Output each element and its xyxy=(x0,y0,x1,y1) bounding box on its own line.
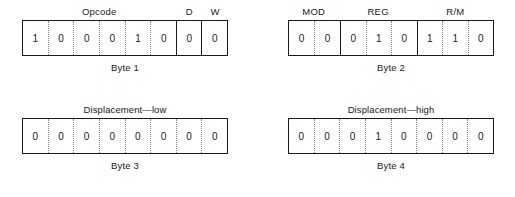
bit-row: 0 0 0 1 0 1 1 0 xyxy=(288,20,494,56)
bit-cell: 0 xyxy=(48,119,74,153)
bit-cell: 0 xyxy=(48,21,74,55)
bit-cell: 0 xyxy=(289,119,314,153)
bit-cell: 0 xyxy=(202,21,227,55)
bit-cell: 0 xyxy=(289,21,314,55)
bit-cell: 0 xyxy=(23,119,48,153)
bit-group-d: 0 xyxy=(176,21,202,55)
bit-group-w: 0 xyxy=(201,21,227,55)
bit-cell: 0 xyxy=(442,119,468,153)
field-label-row: Opcode D W xyxy=(22,4,228,20)
field-label-w: W xyxy=(202,4,228,20)
bit-cell: 0 xyxy=(468,21,494,55)
bit-group-mod: 0 0 xyxy=(289,21,340,55)
bit-cell: 0 xyxy=(201,119,227,153)
bit-group-displacement-high: 0 0 0 1 0 0 0 0 xyxy=(289,119,493,153)
byte-caption: Byte 3 xyxy=(22,154,228,173)
byte-block-1: Opcode D W 1 0 0 0 1 0 0 0 Byte 1 xyxy=(22,4,228,75)
field-label-reg: REG xyxy=(340,4,417,20)
bit-cell: 1 xyxy=(366,21,392,55)
bit-group-opcode: 1 0 0 0 1 0 xyxy=(23,21,176,55)
bit-cell: 0 xyxy=(99,21,125,55)
bit-cell: 1 xyxy=(418,21,443,55)
byte-caption: Byte 1 xyxy=(22,56,228,75)
bit-cell: 1 xyxy=(442,21,468,55)
field-label-displacement-low: Displacement—low xyxy=(22,102,228,118)
bit-cell: 1 xyxy=(365,119,391,153)
bit-cell: 0 xyxy=(73,21,99,55)
byte-caption: Byte 2 xyxy=(288,56,494,75)
field-label-row: MOD REG R/M xyxy=(288,4,494,20)
byte-block-2: MOD REG R/M 0 0 0 1 0 1 1 0 Byte 2 xyxy=(288,4,494,75)
field-label-row: Displacement—high xyxy=(288,102,494,118)
bit-cell: 0 xyxy=(176,119,202,153)
bit-row: 1 0 0 0 1 0 0 0 xyxy=(22,20,228,56)
bit-row: 0 0 0 1 0 0 0 0 xyxy=(288,118,494,154)
bit-cell: 0 xyxy=(73,119,99,153)
field-label-row: Displacement—low xyxy=(22,102,228,118)
bit-cell: 0 xyxy=(416,119,442,153)
bit-cell: 0 xyxy=(150,21,176,55)
bit-cell: 0 xyxy=(391,119,417,153)
field-label-mod: MOD xyxy=(288,4,340,20)
bit-row: 0 0 0 0 0 0 0 0 xyxy=(22,118,228,154)
bit-group-rm: 1 1 0 xyxy=(417,21,494,55)
bit-cell: 1 xyxy=(23,21,48,55)
bit-cell: 0 xyxy=(391,21,417,55)
bit-cell: 0 xyxy=(467,119,493,153)
bit-cell: 0 xyxy=(177,21,202,55)
bit-cell: 0 xyxy=(341,21,366,55)
field-label-opcode: Opcode xyxy=(22,4,177,20)
bit-cell: 0 xyxy=(339,119,365,153)
bit-group-displacement-low: 0 0 0 0 0 0 0 0 xyxy=(23,119,227,153)
field-label-d: D xyxy=(177,4,203,20)
bit-cell: 0 xyxy=(125,119,151,153)
bit-cell: 0 xyxy=(150,119,176,153)
field-label-displacement-high: Displacement—high xyxy=(288,102,494,118)
byte-caption: Byte 4 xyxy=(288,154,494,173)
byte-block-3: Displacement—low 0 0 0 0 0 0 0 0 Byte 3 xyxy=(22,102,228,173)
bit-cell: 0 xyxy=(314,119,340,153)
bit-cell: 1 xyxy=(125,21,151,55)
bit-cell: 0 xyxy=(314,21,340,55)
bit-cell: 0 xyxy=(99,119,125,153)
field-label-rm: R/M xyxy=(417,4,494,20)
bit-group-reg: 0 1 0 xyxy=(340,21,417,55)
byte-block-4: Displacement—high 0 0 0 1 0 0 0 0 Byte 4 xyxy=(288,102,494,173)
